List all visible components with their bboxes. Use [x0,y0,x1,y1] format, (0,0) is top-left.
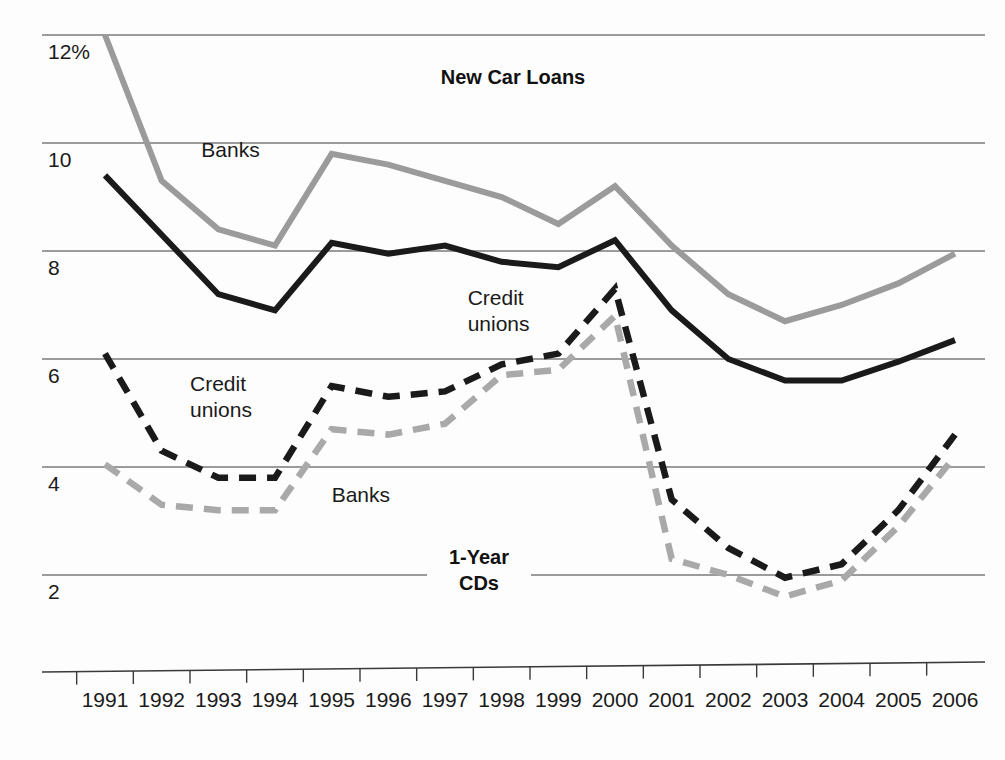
x-tick-label-1995: 1995 [308,688,355,711]
x-tick-label-2000: 2000 [592,688,639,711]
annotation-1-year-cds-line2: CDs [459,572,499,594]
x-tick-label-2004: 2004 [818,688,865,711]
series-line-1-year-cds-credit-unions [105,289,955,578]
y-tick-label-10: 10 [48,148,71,171]
line-chart: 12%108642 New Car Loans1-YearCDsBanksCre… [0,0,1005,760]
x-tick-label-1994: 1994 [252,688,299,711]
x-tick-label-1992: 1992 [138,688,185,711]
x-tick-label-1993: 1993 [195,688,242,711]
y-tick-label-8: 8 [48,256,60,279]
x-tick-label-1996: 1996 [365,688,412,711]
inline-annotations: New Car Loans1-YearCDsBanksCreditunionsC… [190,66,585,595]
x-tick-label-1991: 1991 [82,688,129,711]
annotation-credit-unions-line1: Credit [190,372,246,395]
x-axis-labels: 1991199219931994199519961997199819992000… [82,688,979,711]
y-tick-label-4: 4 [48,472,60,495]
y-axis-labels: 12%108642 [48,40,90,603]
x-tick-label-2002: 2002 [705,688,752,711]
x-tick-label-1999: 1999 [535,688,582,711]
series-line-new-car-loans-credit-unions [105,175,955,380]
x-tick-label-2006: 2006 [932,688,979,711]
y-tick-label-2: 2 [48,580,60,603]
data-lines [105,35,955,597]
x-tick-label-2005: 2005 [875,688,922,711]
y-tick-label-6: 6 [48,364,60,387]
x-tick-label-1998: 1998 [478,688,525,711]
x-tick-label-1997: 1997 [422,688,469,711]
annotation-1-year-cds-line1: 1-Year [449,546,509,568]
annotation-new-car-loans: New Car Loans [441,66,585,88]
x-axis-line [42,662,985,672]
annotation-banks: Banks [201,138,259,161]
x-tick-label-2001: 2001 [648,688,695,711]
chart-page: 12%108642 New Car Loans1-YearCDsBanksCre… [0,0,1005,760]
annotation-credit-unions-line2: unions [190,398,252,421]
annotation-credit-unions-line1: Credit [468,286,524,309]
annotation-banks: Banks [332,483,390,506]
annotation-credit-unions-line2: unions [468,312,530,335]
x-axis [42,662,985,685]
x-tick-label-2003: 2003 [762,688,809,711]
y-tick-label-12pct: 12% [48,40,90,63]
